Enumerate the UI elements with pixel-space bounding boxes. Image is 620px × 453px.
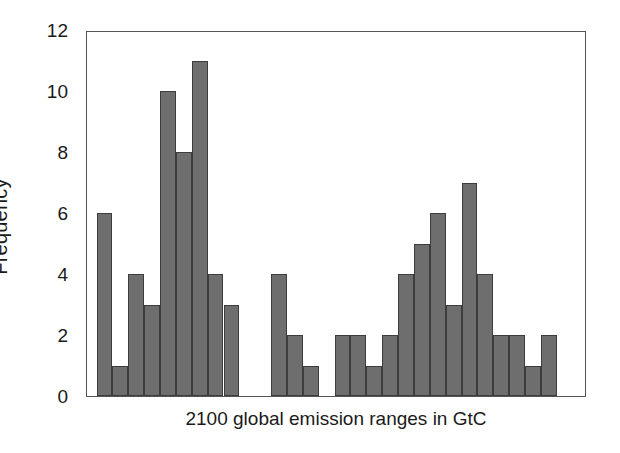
histogram-bar xyxy=(446,305,462,397)
y-tick-label: 8 xyxy=(57,142,68,164)
y-axis-ticks: 024681012 xyxy=(0,0,78,453)
histogram-bar xyxy=(208,274,224,396)
histogram-bar xyxy=(509,335,525,396)
histogram-bar xyxy=(398,274,414,396)
histogram-bar xyxy=(176,152,192,396)
histogram-bar xyxy=(430,213,446,396)
x-axis-label: 2100 global emission ranges in GtC xyxy=(86,408,586,430)
histogram-bar xyxy=(462,183,478,397)
bars-layer xyxy=(87,32,585,396)
plot-area xyxy=(86,31,586,397)
histogram-bar xyxy=(525,366,541,397)
histogram-bar xyxy=(271,274,287,396)
histogram-bar xyxy=(192,61,208,397)
histogram-bar xyxy=(414,244,430,397)
histogram-bar xyxy=(382,335,398,396)
histogram-bar xyxy=(144,305,160,397)
histogram-bar xyxy=(224,305,240,397)
histogram-bar xyxy=(366,366,382,397)
y-tick-label: 12 xyxy=(47,20,68,42)
y-tick-label: 4 xyxy=(57,264,68,286)
histogram-figure: Frequency 024681012 2100 global emission… xyxy=(0,0,620,453)
histogram-bar xyxy=(541,335,557,396)
y-tick-label: 2 xyxy=(57,325,68,347)
histogram-bar xyxy=(477,274,493,396)
histogram-bar xyxy=(287,335,303,396)
histogram-bar xyxy=(97,213,113,396)
histogram-bar xyxy=(350,335,366,396)
histogram-bar xyxy=(112,366,128,397)
histogram-bar xyxy=(128,274,144,396)
histogram-bar xyxy=(493,335,509,396)
y-tick-label: 0 xyxy=(57,386,68,408)
y-tick-label: 6 xyxy=(57,203,68,225)
histogram-bar xyxy=(303,366,319,397)
histogram-bar xyxy=(335,335,351,396)
histogram-bar xyxy=(160,91,176,396)
y-tick-label: 10 xyxy=(47,81,68,103)
